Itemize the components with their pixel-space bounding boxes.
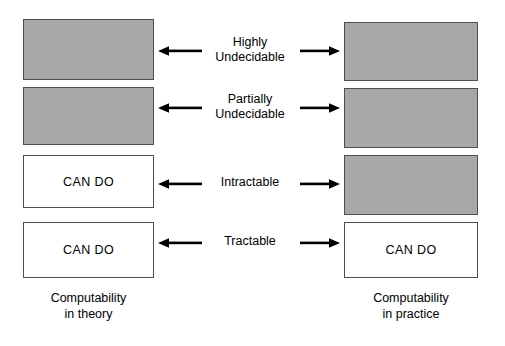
arrow-right-row-1 [300,43,340,55]
right-box-row-4-label: CAN DO [385,243,436,257]
caption-right-line1: Computability [344,290,478,306]
center-label-row-2-line1: Partially [228,92,272,107]
caption-left-line2: in theory [23,306,154,322]
left-box-row-4: CAN DO [23,222,154,278]
arrow-left-icon [158,178,202,190]
center-label-row-2: Partially Undecidable [200,90,300,124]
arrow-right-row-3 [300,176,340,188]
arrow-left-icon [158,237,202,249]
arrow-right-icon [300,102,340,114]
arrow-left-row-2 [158,100,202,112]
center-label-row-1-line1: Highly [233,35,268,50]
center-label-row-4: Tractable [200,233,300,250]
right-box-row-4: CAN DO [344,222,478,278]
right-box-row-3 [344,155,478,215]
caption-left: Computability in theory [23,290,154,322]
center-label-row-2-line2: Undecidable [215,107,285,122]
arrow-right-row-2 [300,100,340,112]
caption-right: Computability in practice [344,290,478,322]
computability-diagram: Highly Undecidable Partially Undecidable [0,0,505,346]
center-label-row-3-line1: Intractable [221,175,279,190]
arrow-left-row-4 [158,235,202,247]
left-box-row-3: CAN DO [23,155,154,208]
caption-left-line1: Computability [23,290,154,306]
center-label-row-1-line2: Undecidable [215,50,285,65]
right-box-row-1 [344,22,478,81]
center-label-row-3: Intractable [200,174,300,191]
arrow-right-icon [300,178,340,190]
arrow-right-row-4 [300,235,340,247]
left-box-row-3-label: CAN DO [63,175,114,189]
left-box-row-1 [23,19,154,80]
arrow-left-icon [158,102,202,114]
right-box-row-2 [344,88,478,148]
arrow-right-icon [300,237,340,249]
left-box-row-4-label: CAN DO [63,243,114,257]
center-label-row-1: Highly Undecidable [200,33,300,67]
arrow-left-icon [158,45,202,57]
center-label-row-4-line1: Tractable [224,234,276,249]
arrow-right-icon [300,45,340,57]
caption-right-line2: in practice [344,306,478,322]
left-box-row-2 [23,87,154,145]
arrow-left-row-3 [158,176,202,188]
arrow-left-row-1 [158,43,202,55]
